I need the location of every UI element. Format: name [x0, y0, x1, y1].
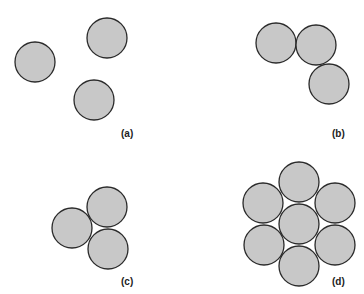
circle [244, 225, 284, 265]
panel-b-label: (b) [332, 128, 345, 139]
circle [87, 187, 127, 227]
panel-a-label: (a) [121, 128, 133, 139]
circle [279, 246, 319, 286]
circle [315, 225, 355, 265]
panel-d-label: (d) [332, 276, 345, 287]
circle [309, 64, 349, 104]
circle [296, 25, 336, 65]
circle [256, 23, 296, 63]
circle [315, 183, 355, 223]
panel-a [15, 18, 127, 120]
circle [279, 162, 319, 202]
panel-b [256, 23, 349, 104]
circle [243, 183, 283, 223]
circle [279, 204, 319, 244]
panel-c [52, 187, 128, 269]
panel-c-label: (c) [121, 276, 133, 287]
panel-d [243, 162, 355, 286]
circle-packing-diagram [0, 0, 364, 294]
circle [87, 18, 127, 58]
circle [88, 229, 128, 269]
circle [52, 208, 92, 248]
circle [15, 42, 55, 82]
circle [74, 80, 114, 120]
